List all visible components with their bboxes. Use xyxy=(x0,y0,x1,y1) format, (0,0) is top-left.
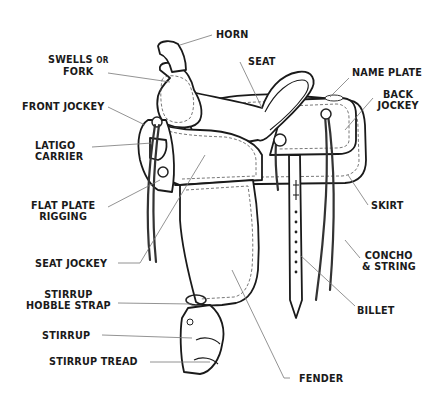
label-billet: BILLET xyxy=(357,305,395,316)
label-latigo-carrier: LATIGO CARRIER xyxy=(35,140,83,162)
rigging-ring xyxy=(158,167,168,177)
label-flat-plate-rigging: FLAT PLATE RIGGING xyxy=(30,200,96,222)
name-plate xyxy=(325,95,343,101)
label-back-jockey: BACK JOCKEY xyxy=(376,89,420,111)
fender-shape xyxy=(180,180,259,305)
label-skirt: SKIRT xyxy=(371,200,404,211)
front-concho xyxy=(152,117,162,127)
label-front-jockey: FRONT JOCKEY xyxy=(22,101,104,112)
label-hobble-line2: HOBBLE STRAP xyxy=(26,299,111,311)
label-swells-line1: SWELLS xyxy=(48,53,93,65)
back-concho xyxy=(321,109,331,119)
label-seat: SEAT xyxy=(248,56,276,67)
label-stirrup-hobble-strap: STIRRUP HOBBLE STRAP xyxy=(26,289,111,311)
label-stirrup: STIRRUP xyxy=(42,330,90,341)
label-concho-line2: & STRING xyxy=(362,260,416,272)
label-rigging-line2: RIGGING xyxy=(39,210,87,222)
label-swells-or: OR xyxy=(96,56,108,65)
label-swells-or-fork: SWELLS OR FORK xyxy=(47,54,110,77)
label-fender: FENDER xyxy=(299,373,343,384)
label-name-plate: NAME PLATE xyxy=(352,67,422,78)
stirrup-bolt xyxy=(187,319,193,325)
label-seat-jockey: SEAT JOCKEY xyxy=(35,258,107,269)
seat-concho xyxy=(274,134,286,146)
label-horn: HORN xyxy=(216,29,249,40)
label-latigo-line2: CARRIER xyxy=(35,150,83,162)
billet-shape xyxy=(289,155,302,318)
fork-shape xyxy=(157,63,201,128)
label-back-jockey-line2: JOCKEY xyxy=(378,99,419,111)
label-swells-line2: FORK xyxy=(63,65,93,77)
label-stirrup-tread: STIRRUP TREAD xyxy=(49,356,138,367)
label-concho-string: CONCHO & STRING xyxy=(362,250,415,272)
